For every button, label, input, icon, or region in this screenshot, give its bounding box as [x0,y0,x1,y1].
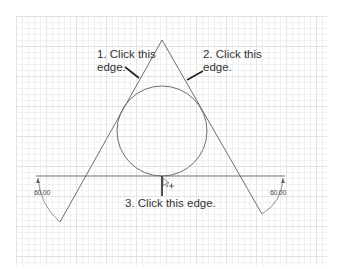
sketch-grid [16,16,327,265]
angle-dimension-left[interactable]: 60.00 [34,189,50,196]
sketch-canvas[interactable]: 1. Click this edge. 2. Click this edge. … [0,0,341,269]
callout-edge1: 1. Click this edge. [97,48,156,74]
leader-line-edge2 [187,71,203,80]
angle-dimension-right[interactable]: 60.00 [270,189,286,196]
callout-edge2: 2. Click this edge. [203,48,262,74]
callout-edge3: 3. Click this edge. [125,197,216,210]
